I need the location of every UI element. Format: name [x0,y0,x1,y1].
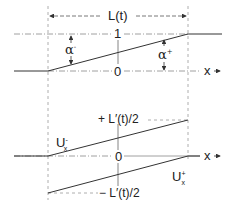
x-axis-label-top: x [204,64,211,77]
u-plus-label: U+x [172,170,185,186]
zero-label-bottom: 0 [114,150,123,163]
x-axis-label-bottom: x [204,149,211,162]
alpha-minus-label: α- [65,43,76,56]
level-one-label: 1 [114,27,121,40]
upper-level-label: + L′(t)/2 [98,113,139,125]
level-zero-label: 0 [114,65,121,78]
width-label: L(t) [106,9,130,22]
u-minus-label: U-x [56,136,67,152]
alpha-plus-label: α+ [158,48,173,61]
lower-level-label: − L′(t)/2 [99,187,140,199]
